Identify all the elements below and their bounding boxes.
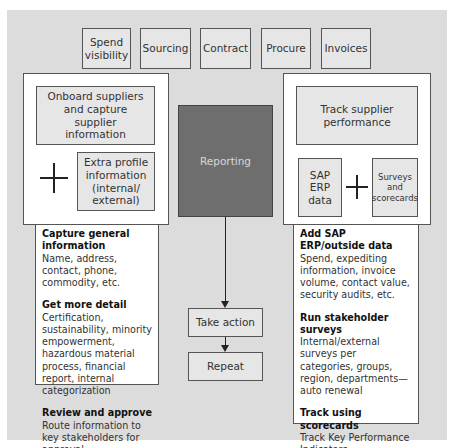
section-review-approve: Review and approve Route information to … (42, 407, 152, 448)
section-body: Track Key Performance Indicators (300, 432, 412, 448)
process-box-sourcing: Sourcing (140, 28, 191, 69)
section-body: Name, address, contact, phone, commodity… (42, 253, 152, 290)
section-heading: Track using scorecards (300, 407, 412, 432)
section-heading: Add SAP ERP/outside data (300, 228, 412, 253)
track-supplier-performance-box: Track supplier performance (296, 86, 418, 145)
repeat-box: Repeat (188, 352, 263, 381)
process-box-spend-visibility: Spend visibility (82, 28, 131, 69)
plus-icon (40, 163, 68, 193)
surveys-scorecards-box: Surveys and scorecards (372, 158, 418, 217)
connector-line (225, 217, 226, 302)
process-box-procure: Procure (261, 28, 311, 69)
process-box-contract: Contract (200, 28, 251, 69)
process-box-invoices: Invoices (321, 28, 371, 69)
section-body: Route information to key stakeholders fo… (42, 420, 152, 448)
plus-icon (346, 175, 368, 199)
section-run-surveys: Run stakeholder surveys Internal/externa… (300, 312, 412, 398)
take-action-box: Take action (188, 308, 263, 337)
section-heading: Review and approve (42, 407, 152, 419)
section-body: Spend, expediting information, invoice v… (300, 253, 412, 302)
section-add-sap-erp: Add SAP ERP/outside data Spend, expediti… (300, 228, 412, 302)
section-heading: Capture general information (42, 228, 152, 253)
section-get-more-detail: Get more detail Certification, sustainab… (42, 299, 152, 397)
sap-erp-data-box: SAP ERP data (298, 158, 342, 217)
section-capture-general: Capture general information Name, addres… (42, 228, 152, 289)
arrow-down-icon (221, 345, 229, 352)
extra-profile-box: Extra profile information (internal/ ext… (77, 152, 155, 211)
section-track-scorecards: Track using scorecards Track Key Perform… (300, 407, 412, 448)
arrow-down-icon (221, 301, 229, 308)
section-body: Certification, sustainability, minority … (42, 312, 152, 398)
section-heading: Get more detail (42, 299, 152, 311)
reporting-box: Reporting (178, 105, 273, 217)
onboard-details-box: Capture general information Name, addres… (35, 224, 159, 385)
performance-details-box: Add SAP ERP/outside data Spend, expediti… (293, 224, 419, 424)
section-heading: Run stakeholder surveys (300, 312, 412, 337)
section-body: Internal/external surveys per categories… (300, 336, 412, 397)
onboard-suppliers-box: Onboard suppliers and capture supplier i… (36, 86, 155, 145)
